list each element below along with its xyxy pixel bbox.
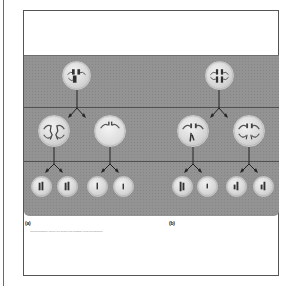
panel-label-a: (a): [25, 220, 31, 226]
split-arrow-icon: [66, 90, 88, 120]
daughter-cell-a1: [38, 115, 70, 147]
gamete-cell-b3: [226, 176, 247, 197]
gamete-cell-b4: [253, 176, 274, 197]
panel-label-b: (b): [169, 220, 175, 226]
chromosome-icon: [198, 177, 217, 196]
row-divider-1: [24, 107, 279, 108]
gamete-cell-a4: [113, 176, 134, 197]
chromosome-icon: [227, 177, 246, 196]
chromosome-icon: [88, 177, 107, 196]
gamete-cell-a1: [31, 176, 52, 197]
chromosome-icon: [178, 116, 208, 146]
gamete-cell-b2: [197, 176, 218, 197]
split-arrow-icon: [183, 147, 203, 175]
chromosome-icon: [114, 177, 133, 196]
gamete-cell-a3: [87, 176, 108, 197]
daughter-cell-a2: [94, 115, 126, 147]
gamete-cell-b1: [172, 176, 193, 197]
split-arrow-icon: [239, 147, 259, 175]
gamete-cell-a2: [57, 176, 78, 197]
chromosome-icon: [58, 177, 77, 196]
document-page: (a) (b) meiosis diagram: parent cell div…: [0, 0, 298, 286]
split-arrow-icon: [44, 147, 64, 175]
daughter-cell-b1: [177, 115, 209, 147]
parent-cell-b: [205, 61, 234, 90]
split-arrow-icon: [208, 90, 230, 120]
chromosome-icon: [254, 177, 273, 196]
split-arrow-icon: [100, 147, 120, 175]
parent-cell-a: [62, 61, 91, 90]
page-margin-line: [3, 0, 4, 286]
chromosome-icon: [206, 62, 233, 89]
chromosome-icon: [39, 116, 69, 146]
chromosome-icon: [234, 116, 264, 146]
chromosome-icon: [63, 62, 90, 89]
chromosome-icon: [95, 116, 125, 146]
figure-caption: meiosis diagram: parent cell divides int…: [30, 230, 140, 233]
chromosome-icon: [173, 177, 192, 196]
daughter-cell-b2: [233, 115, 265, 147]
chromosome-icon: [32, 177, 51, 196]
